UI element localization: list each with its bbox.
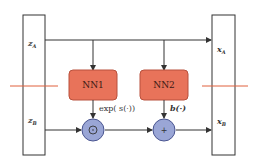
addition-node: + (153, 119, 175, 141)
nn1-label: NN1 (82, 80, 103, 90)
scale-function-label: exp( s(·)) (99, 104, 135, 113)
nn2-block: NN2 (140, 70, 188, 100)
elementwise-product-node (82, 119, 104, 141)
coupling-layer-diagram: zA zB xA xB NN1 NN2 exp( s(·)) b(·) + (0, 0, 259, 165)
plus-icon: + (161, 126, 168, 135)
nn2-label: NN2 (153, 80, 174, 90)
input-vector-box (23, 15, 45, 155)
output-vector-box (212, 15, 235, 155)
shift-function-label: b(·) (170, 103, 186, 113)
nn1-block: NN1 (69, 70, 117, 100)
